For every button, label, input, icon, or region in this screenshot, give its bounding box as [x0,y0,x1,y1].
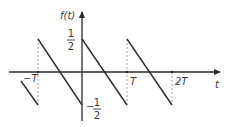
tick-2T [171,71,174,74]
one-half-denominator: 2 [68,41,74,52]
sawtooth-diagram: f(t) t −T T 2T 1 2 − 1 2 [0,0,228,127]
label-one-half: 1 2 [67,28,75,52]
minus-one-half-numerator: 1 [94,97,100,108]
tick-label-2T: 2T [175,76,188,87]
tick-label-neg-T: −T [23,73,38,84]
one-half-numerator: 1 [68,28,74,39]
tick-label-T: T [130,76,137,87]
tick-T [126,71,129,74]
minus-one-half-denominator: 2 [94,110,100,121]
sawtooth-segment-0 [21,81,38,105]
x-axis-label: t [215,79,220,90]
y-axis-label: f(t) [60,10,75,21]
label-minus-one-half: − 1 2 [86,97,101,121]
